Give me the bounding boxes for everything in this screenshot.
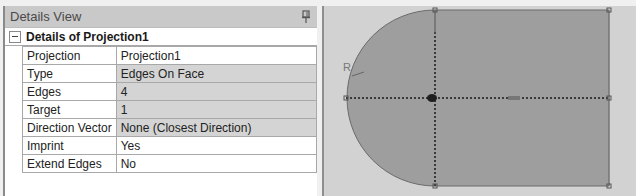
- property-value[interactable]: None (Closest Direction): [116, 119, 316, 137]
- collapse-minus-icon[interactable]: [9, 31, 21, 43]
- radius-label[interactable]: R: [343, 61, 351, 73]
- property-name: Imprint: [23, 137, 117, 155]
- property-row-projection[interactable]: Projection Projection1: [23, 47, 317, 65]
- dimension-marker: [508, 96, 520, 100]
- property-row-direction-vector[interactable]: Direction Vector None (Closest Direction…: [23, 119, 317, 137]
- sketch-geometry[interactable]: [324, 6, 636, 196]
- property-value[interactable]: 1: [116, 101, 316, 119]
- property-row-extend-edges[interactable]: Extend Edges No: [23, 155, 317, 173]
- property-name: Projection: [23, 47, 117, 65]
- panel-title: Details View: [10, 9, 81, 24]
- property-name: Target: [23, 101, 117, 119]
- details-view-panel: Details View Details of Projection1 Proj…: [3, 6, 317, 196]
- graphics-viewport[interactable]: R: [322, 6, 636, 196]
- pin-icon[interactable]: [301, 10, 311, 24]
- property-value[interactable]: Yes: [116, 137, 316, 155]
- details-view-header: Details View: [5, 6, 317, 28]
- properties-table: Projection Projection1 Type Edges On Fac…: [22, 46, 317, 173]
- property-value[interactable]: No: [116, 155, 316, 173]
- property-name: Type: [23, 65, 117, 83]
- group-label: Details of Projection1: [26, 30, 149, 44]
- property-value[interactable]: Projection1: [116, 47, 316, 65]
- app-window: Details View Details of Projection1 Proj…: [0, 0, 636, 196]
- property-value[interactable]: Edges On Face: [116, 65, 316, 83]
- property-row-target[interactable]: Target 1: [23, 101, 317, 119]
- property-name: Direction Vector: [23, 119, 117, 137]
- property-value[interactable]: 4: [116, 83, 316, 101]
- origin-point: [427, 94, 437, 102]
- property-name: Edges: [23, 83, 117, 101]
- property-row-imprint[interactable]: Imprint Yes: [23, 137, 317, 155]
- details-group-header[interactable]: Details of Projection1: [5, 28, 317, 46]
- property-row-type[interactable]: Type Edges On Face: [23, 65, 317, 83]
- property-row-edges[interactable]: Edges 4: [23, 83, 317, 101]
- property-name: Extend Edges: [23, 155, 117, 173]
